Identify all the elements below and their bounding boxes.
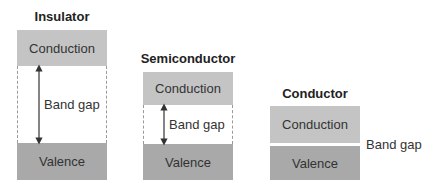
band-gap-arrows — [0, 0, 439, 188]
